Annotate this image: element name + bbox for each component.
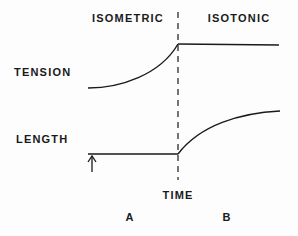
phase-label-isotonic: ISOTONIC — [208, 12, 271, 24]
tension-rising-curve — [88, 44, 178, 88]
up-arrow-icon — [88, 156, 96, 172]
phase-label-isometric: ISOMETRIC — [92, 12, 164, 24]
row-label-length: LENGTH — [16, 133, 68, 145]
length-rising-curve — [178, 111, 280, 154]
row-label-tension: TENSION — [14, 66, 71, 78]
panel-label-a: A — [125, 211, 134, 223]
muscle-contraction-diagram: ISOMETRIC ISOTONIC TENSION LENGTH TIME A… — [0, 0, 298, 236]
tension-plateau-line — [178, 44, 279, 45]
axis-label-time: TIME — [162, 189, 193, 201]
diagram-plot — [0, 0, 298, 236]
panel-label-b: B — [222, 211, 231, 223]
